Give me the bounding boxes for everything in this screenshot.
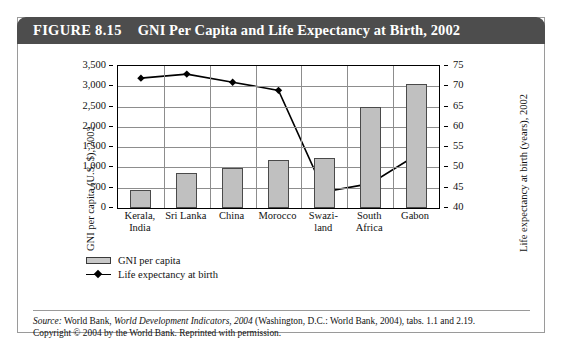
line-marker-icon	[86, 270, 111, 279]
line-marker	[137, 74, 144, 81]
x-axis-labels: Kerala,IndiaSri LankaChinaMoroccoSwazi-l…	[117, 210, 440, 244]
right-tick-mark	[444, 166, 448, 167]
category-separator	[393, 66, 394, 208]
chart-region: GNI per capita (U.S. $), 2002 Life expec…	[18, 45, 544, 307]
gridline	[118, 107, 439, 108]
bar	[176, 173, 197, 208]
figure-title: GNI Per Capita and Life Expectancy at Bi…	[138, 22, 460, 39]
legend-item-gni: GNI per capita	[86, 253, 218, 267]
right-tick-label: 60	[453, 121, 464, 132]
line-marker	[275, 87, 282, 94]
gridline	[118, 86, 439, 87]
left-tick-mark	[109, 207, 113, 208]
left-tick-label: 2,500	[82, 101, 106, 112]
right-tick-mark	[444, 146, 448, 147]
bar	[268, 160, 289, 208]
left-axis-ticks: 05001,0001,5002,0002,5003,0003,500	[64, 65, 113, 207]
left-tick-mark	[109, 65, 113, 66]
right-tick-mark	[444, 65, 448, 66]
right-tick-mark	[444, 106, 448, 107]
left-tick-label: 2,000	[82, 121, 106, 132]
source-copyright: Copyright © 2004 by the World Bank. Repr…	[33, 327, 533, 339]
left-tick-label: 1,500	[82, 141, 106, 152]
left-tick-mark	[109, 85, 113, 86]
bar	[314, 158, 335, 208]
right-tick-label: 75	[453, 60, 464, 71]
category-separator	[164, 66, 165, 208]
right-tick-mark	[444, 187, 448, 188]
left-tick-label: 500	[90, 182, 106, 193]
right-tick-label: 50	[453, 161, 464, 172]
right-tick-label: 45	[453, 182, 464, 193]
source-divider	[33, 310, 530, 311]
right-tick-label: 70	[453, 80, 464, 91]
left-tick-label: 1,000	[82, 161, 106, 172]
left-tick-mark	[109, 187, 113, 188]
line-marker	[229, 79, 236, 86]
left-tick-mark	[109, 106, 113, 107]
right-tick-mark	[444, 85, 448, 86]
source-publication: World Development Indicators, 2004	[114, 316, 253, 326]
left-tick-mark	[109, 166, 113, 167]
figure-number: FIGURE 8.15	[33, 22, 122, 39]
bar	[130, 190, 151, 208]
category-separator	[301, 66, 302, 208]
right-tick-mark	[444, 207, 448, 208]
legend-item-life-expectancy: Life expectancy at birth	[86, 267, 218, 281]
legend-label-gni: GNI per capita	[118, 255, 180, 266]
gridline	[118, 147, 439, 148]
left-tick-label: 3,000	[82, 80, 106, 91]
figure-frame: FIGURE 8.15 GNI Per Capita and Life Expe…	[17, 17, 545, 333]
category-separator	[347, 66, 348, 208]
left-tick-label: 3,500	[82, 60, 106, 71]
right-axis-title: Life expectancy at birth (years), 2002	[518, 94, 529, 252]
bar-swatch-icon	[86, 257, 111, 264]
bar	[222, 168, 243, 208]
category-separator	[256, 66, 257, 208]
right-tick-label: 65	[453, 101, 464, 112]
left-tick-mark	[109, 126, 113, 127]
plot-area	[117, 65, 440, 209]
x-axis-label: Gabon	[384, 210, 446, 222]
figure-header: FIGURE 8.15 GNI Per Capita and Life Expe…	[17, 17, 545, 44]
gridline	[118, 127, 439, 128]
source-note: Source: World Bank, World Development In…	[33, 315, 533, 339]
right-tick-mark	[444, 126, 448, 127]
right-tick-label: 40	[453, 202, 464, 213]
source-text-b: (Washington, D.C.: World Bank, 2004), ta…	[253, 316, 475, 326]
right-tick-label: 55	[453, 141, 464, 152]
left-tick-mark	[109, 146, 113, 147]
bar	[406, 84, 427, 208]
chart-legend: GNI per capita Life expectancy at birth	[86, 253, 218, 281]
left-tick-label: 0	[101, 202, 106, 213]
right-axis-ticks: 4045505560657075	[444, 65, 484, 207]
legend-label-life-expectancy: Life expectancy at birth	[118, 269, 218, 280]
line-marker	[183, 70, 190, 77]
category-separator	[210, 66, 211, 208]
source-text-a: World Bank,	[62, 316, 114, 326]
bar	[360, 107, 381, 208]
source-label: Source:	[33, 316, 62, 326]
